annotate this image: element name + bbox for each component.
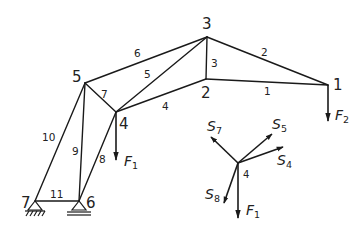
member-label-9: 9	[72, 145, 79, 157]
truss-members	[35, 37, 328, 201]
force-label-s7: S7	[207, 118, 222, 136]
load-label-f1: F1	[124, 153, 138, 171]
truss-svg: F1 F2 1 2 3 4 5 6 7 1 2 3 4 5 6 7 8 9 10…	[0, 0, 364, 229]
member-label-11: 11	[50, 188, 63, 200]
member-label-7: 7	[101, 88, 108, 100]
member-label-4: 4	[162, 100, 169, 112]
node-label-2: 2	[201, 84, 211, 102]
member-8	[79, 112, 116, 201]
member-4	[116, 79, 206, 112]
member-label-2: 2	[261, 46, 268, 58]
member-3	[206, 37, 207, 79]
truss-diagram: F1 F2 1 2 3 4 5 6 7 1 2 3 4 5 6 7 8 9 10…	[0, 0, 364, 229]
force-label-s4: S4	[277, 152, 292, 170]
node-label-7: 7	[21, 194, 31, 212]
force-arrow-s7	[211, 137, 238, 163]
force-arrow-s5	[238, 134, 272, 163]
node-label-3: 3	[202, 15, 212, 33]
force-label-f1: F1	[246, 202, 260, 220]
node-label-5: 5	[72, 68, 82, 86]
member-9	[79, 83, 85, 201]
node-label-1: 1	[333, 76, 343, 94]
force-label-s5: S5	[272, 116, 287, 134]
load-label-f2: F2	[335, 107, 349, 125]
member-label-1: 1	[264, 85, 271, 97]
node-label-6: 6	[86, 194, 96, 212]
free-body-node-4: 4 S7 S5 S4 S8 F1	[205, 116, 292, 220]
force-arrow-s8	[224, 163, 238, 203]
member-label-3: 3	[211, 57, 218, 69]
member-label-8: 8	[99, 153, 106, 165]
member-label-5: 5	[144, 68, 151, 80]
free-body-node-label: 4	[243, 169, 249, 180]
node-labels: 1 2 3 4 5 6 7	[21, 15, 343, 212]
member-label-10: 10	[42, 131, 55, 143]
force-label-s8: S8	[205, 186, 220, 204]
member-label-6: 6	[134, 47, 141, 59]
node-label-4: 4	[119, 115, 129, 133]
member-2	[207, 37, 328, 85]
